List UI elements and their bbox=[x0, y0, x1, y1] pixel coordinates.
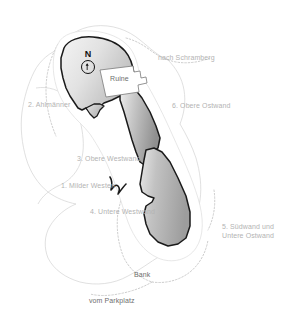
compass-north-label: N bbox=[77, 49, 99, 59]
sector-label-1-milder-westen[interactable]: 1. Milder Westen bbox=[61, 181, 115, 190]
compass-rose: N bbox=[77, 49, 99, 81]
terrain-contour-lower-west bbox=[38, 186, 58, 204]
sector-label-6-obere-ostwand[interactable]: 6. Obere Ostwand bbox=[172, 101, 230, 110]
label-bank: Bank bbox=[134, 270, 150, 279]
terrain-contour-east-upper bbox=[168, 60, 185, 124]
label-vom-parkplatz: vom Parkplatz bbox=[89, 296, 135, 305]
label-nach-schramberg: nach Schramberg bbox=[158, 53, 215, 62]
terrain-contour-southwest bbox=[45, 204, 80, 282]
climbing-topo-map: N Ruine nach Schramberg 2. Ahlmänner 6. … bbox=[0, 0, 292, 319]
sector-label-3-obere-westwand[interactable]: 3. Obere Westwand bbox=[77, 154, 140, 163]
sector-label-5-line2: Untere Ostwand bbox=[222, 232, 274, 239]
ruin-label: Ruine bbox=[110, 74, 129, 83]
trail-east-flank bbox=[208, 190, 215, 230]
sector-label-2-ahlmaenner[interactable]: 2. Ahlmänner bbox=[28, 100, 70, 109]
compass-north-arrow-icon bbox=[81, 60, 95, 74]
sector-label-5-suedwand-untere-ostwand[interactable]: 5. Südwand und Untere Ostwand bbox=[222, 222, 286, 240]
sector-label-5-line1: 5. Südwand und bbox=[222, 223, 274, 230]
sector-label-4-untere-westwand[interactable]: 4. Untere Westwand bbox=[90, 207, 155, 216]
compass-arrow-glyph bbox=[82, 61, 93, 72]
